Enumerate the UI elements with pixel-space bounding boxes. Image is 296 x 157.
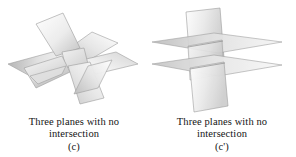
figure-tag: (c')	[148, 141, 296, 154]
plane-b-upper	[36, 13, 80, 56]
figure-page: Three planes with no intersection (c)	[0, 0, 296, 157]
figure-tag: (c)	[0, 141, 148, 154]
caption-line-1: Three planes with no	[148, 116, 296, 129]
diagram-three-planes-vertical-with-two-parallel	[148, 2, 296, 115]
caption-line-1: Three planes with no	[0, 116, 148, 129]
caption-line-2: intersection	[148, 128, 296, 141]
caption-line-2: intersection	[0, 128, 148, 141]
figure-panel-c: Three planes with no intersection (c)	[0, 0, 148, 157]
diagram-three-planes-pinwheel	[0, 2, 148, 115]
vertical-plane-lower	[190, 62, 228, 112]
figure-panel-c-prime: Three planes with no intersection (c')	[148, 0, 296, 157]
